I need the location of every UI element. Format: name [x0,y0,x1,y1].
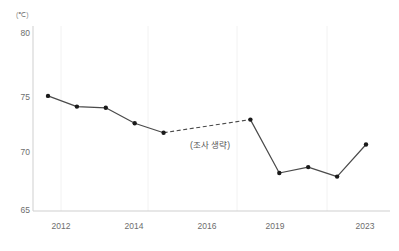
x-tick-label-2012: 2012 [41,221,81,231]
x-tick-label-2019: 2019 [255,221,295,231]
plot-area [0,0,399,251]
line-segment-2012-2016 [48,96,164,133]
data-point-2021 [306,165,310,169]
x-tick-label-2014: 2014 [114,221,154,231]
data-point-markers [46,94,368,179]
data-point-2015 [133,121,137,125]
data-point-2019 [248,117,252,121]
data-point-2012 [46,94,50,98]
x-tick-label-2016: 2016 [187,221,227,231]
gap-annotation-label: (조사 생략) [166,138,254,150]
data-point-2020 [277,171,281,175]
line-chart-figure: (℃) 80 75 70 65 (조사 생략) 2012 2014 2016 2… [0,0,399,251]
data-point-2013 [75,104,79,108]
data-point-2016 [161,131,165,135]
x-tick-label-2023: 2023 [345,221,385,231]
data-point-2014 [104,106,108,110]
data-point-2023 [364,142,368,146]
data-point-2022 [335,174,339,178]
